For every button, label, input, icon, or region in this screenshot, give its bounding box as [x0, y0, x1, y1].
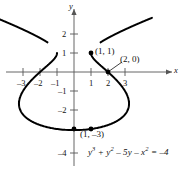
y-axis-label: y	[69, 2, 73, 11]
point-2-0	[106, 70, 111, 75]
point-label-1-1: (1, 1)	[95, 47, 115, 56]
equation-term-4: = –4	[149, 147, 169, 157]
y-tick-label-neg1: –1	[58, 87, 67, 96]
x-tick-label-2: 2	[106, 79, 110, 88]
curve-upper-right-branch	[101, 18, 152, 42]
point-label-2-0: (2, 0)	[120, 55, 140, 64]
equation-term-3: – 5y – x	[114, 147, 145, 157]
y-tick-label-neg2: –2	[58, 106, 67, 115]
y-axis	[71, 9, 76, 166]
y-tick-label-1: 1	[62, 49, 66, 58]
x-tick-label-1: 1	[89, 79, 93, 88]
curve-upper-left-branch	[0, 18, 47, 42]
x-tick-label-neg3: –3	[17, 79, 26, 88]
point-0-neg3	[72, 127, 77, 132]
implicit-curve-figure: y x –3 –2 –1 1 2 3 2 1 –1 –2 –4 (1, 1) (…	[0, 0, 185, 169]
x-tick-label-3: 3	[123, 79, 127, 88]
y-tick-label-neg4: –4	[58, 149, 67, 158]
y-tick-label-2: 2	[62, 30, 66, 39]
x-axis	[6, 69, 172, 74]
point-1-1	[89, 51, 94, 56]
x-axis-label: x	[174, 66, 178, 75]
point-label-1-neg3: (1, –3)	[80, 130, 104, 139]
equation-label: y3 + y2 – 5y – x2 = –4	[88, 148, 169, 157]
equation-term-2: + y	[95, 147, 110, 157]
x-tick-label-neg2: –2	[34, 79, 43, 88]
